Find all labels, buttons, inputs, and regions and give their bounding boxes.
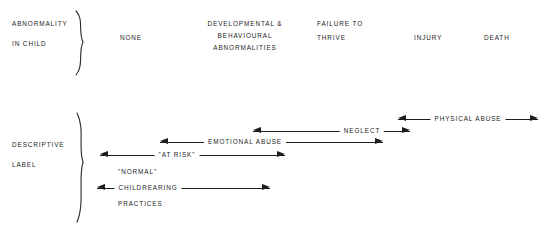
arrow-head-right-icon	[262, 184, 270, 190]
arrow-head-left-icon	[398, 115, 406, 121]
bottom-brace-icon	[72, 112, 94, 224]
column-header-none: NONE	[120, 33, 142, 43]
arrow-physical-abuse: PHYSICAL ABUSE	[398, 113, 538, 125]
column-header-developmental-line2: BEHAVIOURAL	[218, 31, 273, 41]
arrow-at-risk: "AT RISK"	[100, 149, 285, 161]
top-brace-icon	[72, 10, 94, 76]
arrow-label-childrearing: CHILDREARING	[114, 182, 181, 194]
column-header-death: DEATH	[484, 33, 510, 43]
arrow-label-physical-abuse: PHYSICAL ABUSE	[430, 113, 505, 125]
label-normal: "NORMAL"	[118, 167, 157, 177]
descriptive-label-line1: DESCRIPTIVE	[12, 140, 65, 150]
arrow-head-left-icon	[253, 127, 261, 133]
arrow-head-right-icon	[530, 115, 538, 121]
column-header-developmental-line3: ABNORMALITIES	[213, 43, 277, 53]
arrow-head-left-icon	[97, 184, 105, 190]
abnormality-in-child-label-line1: ABNORMALITY	[12, 19, 68, 29]
column-header-developmental-line1: DEVELOPMENTAL &	[208, 19, 283, 29]
label-practices: PRACTICES	[118, 199, 163, 209]
arrow-label-emotional-abuse: EMOTIONAL ABUSE	[204, 136, 286, 148]
column-header-failure-line2: THRIVE	[317, 33, 346, 43]
arrow-childrearing: CHILDREARING	[97, 182, 270, 194]
arrow-head-right-icon	[375, 138, 383, 144]
arrow-label-at-risk: "AT RISK"	[155, 149, 200, 161]
descriptive-label-line2: LABEL	[12, 160, 36, 170]
column-header-failure-line1: FAILURE TO	[317, 19, 363, 29]
column-header-injury: INJURY	[414, 33, 442, 43]
diagram-canvas: ABNORMALITY IN CHILD NONE DEVELOPMENTAL …	[0, 0, 551, 228]
arrow-head-left-icon	[160, 138, 168, 144]
arrow-head-right-icon	[277, 151, 285, 157]
abnormality-in-child-label-line2: IN CHILD	[12, 39, 47, 49]
arrow-head-left-icon	[100, 151, 108, 157]
arrow-head-right-icon	[402, 127, 410, 133]
arrow-line	[253, 131, 410, 132]
arrow-emotional-abuse: EMOTIONAL ABUSE	[160, 136, 383, 148]
